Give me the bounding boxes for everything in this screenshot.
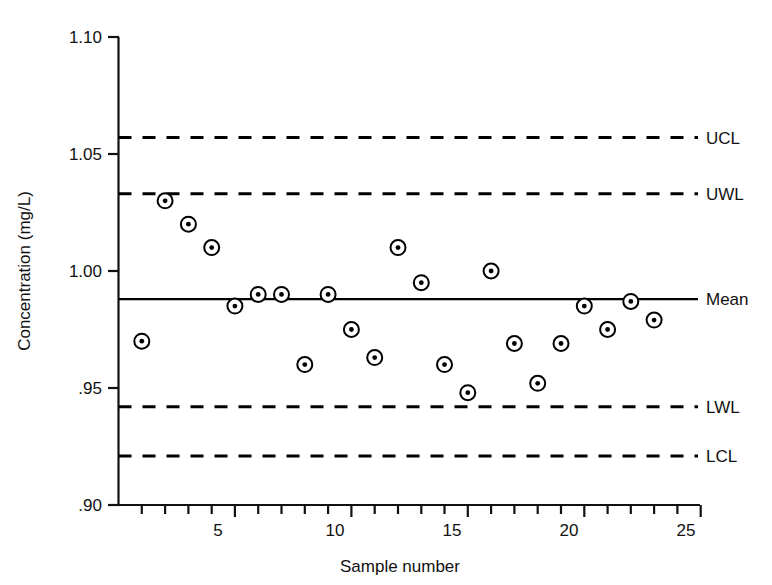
data-point [204,240,219,255]
data-point-center-dot [326,292,331,297]
data-point [437,357,452,372]
data-point [600,322,615,337]
data-point [577,299,592,314]
data-point-center-dot [256,292,261,297]
data-point-center-dot [372,355,377,360]
y-tick-label-1-10: 1.10 [69,28,102,47]
data-point-center-dot [652,318,657,323]
data-point [554,336,569,351]
x-tick-label-15: 15 [443,521,462,540]
data-point [507,336,522,351]
control-chart-svg: 1.10 1.05 1.00 .95 .90 Concentration (mg… [0,0,772,585]
data-point-center-dot [442,362,447,367]
data-point-center-dot [279,292,284,297]
x-tick-label-10: 10 [326,521,345,540]
ucl-label: UCL [706,129,740,148]
x-tick-label-5: 5 [213,521,222,540]
x-tick-label-25: 25 [677,521,696,540]
y-axis-title: Concentration (mg/L) [15,191,34,351]
data-point [274,287,289,302]
data-point [251,287,266,302]
data-point-center-dot [139,339,144,344]
data-point [158,193,173,208]
data-point-center-dot [163,198,168,203]
data-point-center-dot [582,304,587,309]
data-point-center-dot [605,327,610,332]
data-point [134,334,149,349]
data-point [227,299,242,314]
y-tick-label-0-90: .90 [78,496,102,515]
data-point-center-dot [419,280,424,285]
data-point-center-dot [559,341,564,346]
data-point [344,322,359,337]
x-tick-label-20: 20 [560,521,579,540]
data-point [297,357,312,372]
data-point [321,287,336,302]
data-point-center-dot [209,245,214,250]
data-point-center-dot [233,304,238,309]
data-point [623,294,638,309]
lwl-label: LWL [706,398,740,417]
data-point [181,217,196,232]
data-point [391,240,406,255]
y-tick-label-1-00: 1.00 [69,262,102,281]
data-point [647,313,662,328]
lcl-label: LCL [706,447,737,466]
data-point-center-dot [396,245,401,250]
data-point-center-dot [489,269,494,274]
data-point [530,376,545,391]
mean-label: Mean [706,290,749,309]
control-chart: 1.10 1.05 1.00 .95 .90 Concentration (mg… [0,0,772,585]
data-point [484,264,499,279]
data-point-center-dot [628,299,633,304]
data-point-center-dot [535,381,540,386]
data-point-center-dot [512,341,517,346]
uwl-label: UWL [706,185,744,204]
data-point [367,350,382,365]
data-point-center-dot [465,390,470,395]
data-point-center-dot [186,222,191,227]
chart-background [0,0,772,585]
data-point [414,275,429,290]
data-point [460,385,475,400]
data-point-center-dot [349,327,354,332]
y-tick-label-0-95: .95 [78,379,102,398]
y-tick-label-1-05: 1.05 [69,145,102,164]
x-axis-title: Sample number [340,557,460,576]
data-point-center-dot [302,362,307,367]
